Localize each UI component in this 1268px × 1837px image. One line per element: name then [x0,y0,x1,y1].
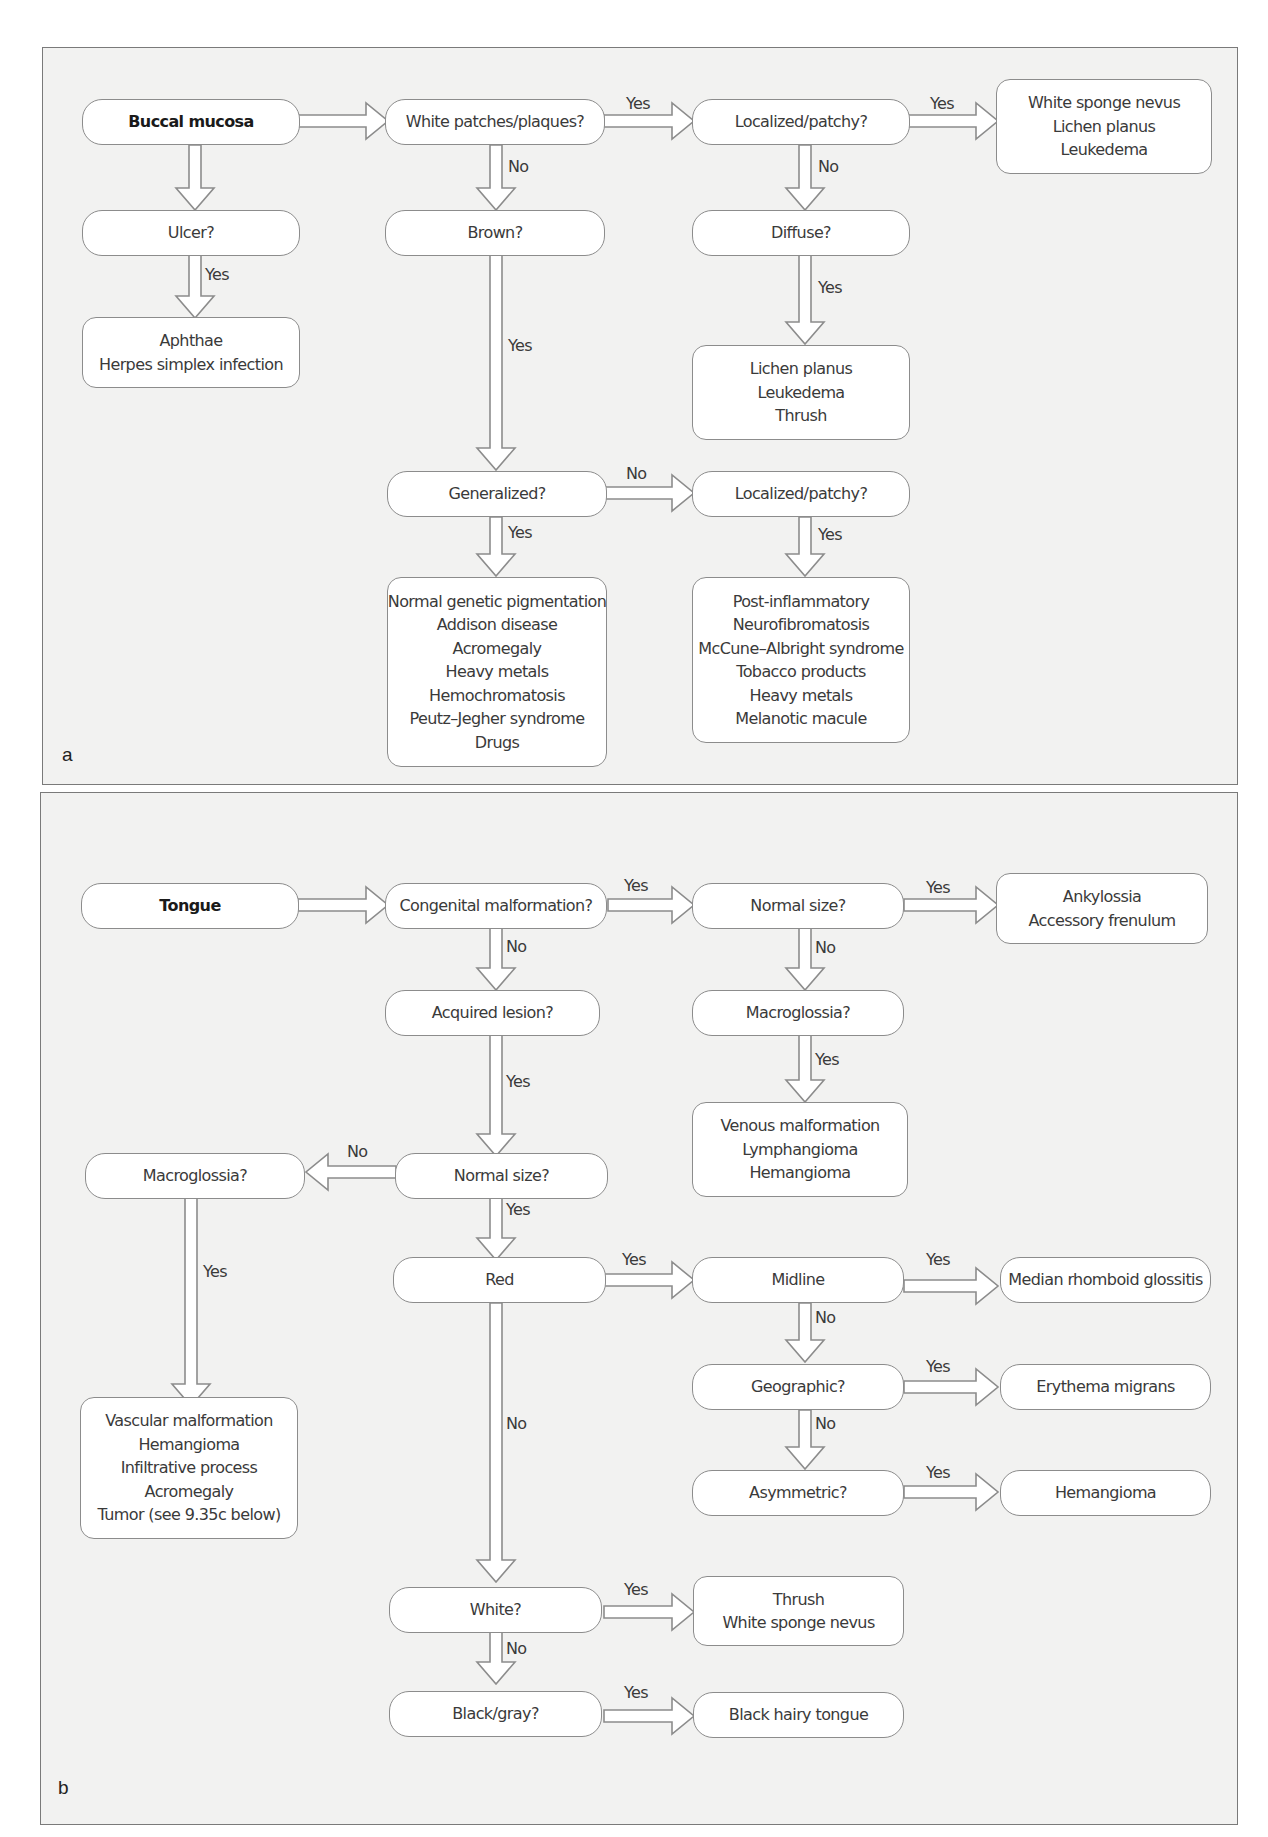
node-normal-size-1: Normal size? [692,883,904,929]
node-red: Red [393,1257,606,1303]
result-item: Leukedema [1060,138,1147,162]
node-normal-size-2: Normal size? [395,1153,608,1199]
node-result-white: Thrush White sponge nevus [693,1576,904,1646]
node-result-localized-1: White sponge nevus Lichen planus Leukede… [996,79,1212,174]
edge-label-ulcer-yes: Yes [205,265,229,284]
result-item: Addison disease [437,613,558,637]
node-label: Normal size? [454,1164,549,1188]
edge-label-white-no-b: No [506,1639,527,1658]
result-item: Tumor (see 9.35c below) [97,1503,280,1527]
node-generalized: Generalized? [387,471,607,517]
node-localized-patchy-1: Localized/patchy? [692,99,910,145]
result-item: Peutz–Jegher syndrome [409,707,584,731]
edge-label-normalsize1-yes: Yes [926,878,950,897]
node-congenital-malformation: Congenital malformation? [385,883,607,929]
edge-label-red-no: No [506,1414,527,1433]
result-item: Vascular malformation [105,1409,273,1433]
node-label: Macroglossia? [143,1164,247,1188]
node-label: White? [470,1598,521,1622]
result-item: Lichen planus [1053,115,1156,139]
edge-label-geographic-no: No [815,1414,836,1433]
edge-label-asymmetric-yes: Yes [926,1463,950,1482]
result-item: Infiltrative process [121,1456,258,1480]
node-brown: Brown? [385,210,605,256]
node-result-localized-2: Post-inflammatory Neurofibromatosis McCu… [692,577,910,743]
result-item: Thrush [775,404,827,428]
node-label: Localized/patchy? [735,482,868,506]
result-item: Lichen planus [750,357,853,381]
node-label: Generalized? [448,482,545,506]
node-label: Median rhomboid glossitis [1008,1268,1202,1292]
node-diffuse: Diffuse? [692,210,910,256]
node-macroglossia-1: Macroglossia? [692,990,904,1036]
edge-label-localized1-yes: Yes [930,94,954,113]
edge-label-macroglossia1-yes: Yes [815,1050,839,1069]
node-white: White? [389,1587,602,1633]
node-macroglossia-2: Macroglossia? [85,1153,305,1199]
edge-label-midline-no: No [815,1308,836,1327]
edge-label-white-yes-b: Yes [624,1580,648,1599]
node-buccal-mucosa: Buccal mucosa [82,99,300,145]
node-label: Black/gray? [452,1702,539,1726]
node-label: Red [485,1268,514,1292]
result-item: Normal genetic pigmentation [388,590,606,614]
result-item: Thrush [773,1588,825,1612]
result-item: Herpes simplex infection [99,353,283,377]
edge-label-red-yes: Yes [622,1250,646,1269]
result-item: Tobacco products [736,660,866,684]
node-tongue: Tongue [81,883,299,929]
node-result-diffuse: Lichen planus Leukedema Thrush [692,345,910,440]
panel-a-letter: a [62,744,73,766]
result-item: Aphthae [159,329,222,353]
result-item: Hemangioma [749,1161,850,1185]
node-midline: Midline [692,1257,904,1303]
node-label: Asymmetric? [749,1481,847,1505]
node-label: Black hairy tongue [729,1703,868,1727]
edge-label-geographic-yes: Yes [926,1357,950,1376]
node-label: White patches/plaques? [406,110,585,134]
result-item: Heavy metals [446,660,549,684]
node-result-asymmetric: Hemangioma [1000,1470,1211,1516]
result-item: Acromegaly [453,637,542,661]
node-result-macroglossia-2: Vascular malformation Hemangioma Infiltr… [80,1397,298,1539]
result-item: White sponge nevus [722,1611,874,1635]
edge-label-macroglossia2-yes: Yes [203,1262,227,1281]
node-label: Congenital malformation? [400,894,593,918]
edge-label-normalsize2-no: No [347,1142,368,1161]
node-label: Erythema migrans [1036,1375,1174,1399]
result-item: Post-inflammatory [733,590,870,614]
result-item: Ankylossia [1063,885,1141,909]
result-item: White sponge nevus [1028,91,1180,115]
node-ulcer: Ulcer? [82,210,300,256]
node-result-geographic: Erythema migrans [1000,1364,1211,1410]
result-item: Accessory frenulum [1028,909,1175,933]
result-item: Neurofibromatosis [733,613,870,637]
edge-label-black-yes: Yes [624,1683,648,1702]
node-label: Ulcer? [168,221,214,245]
edge-label-white-yes: Yes [626,94,650,113]
edge-label-midline-yes: Yes [926,1250,950,1269]
node-result-normal-size-1: Ankylossia Accessory frenulum [996,873,1208,944]
node-label: Hemangioma [1055,1481,1156,1505]
edge-label-white-no: No [508,157,529,176]
node-result-generalized: Normal genetic pigmentation Addison dise… [387,577,607,767]
edge-label-normalsize2-yes: Yes [506,1200,530,1219]
result-item: Melanotic macule [735,707,866,731]
node-label: Tongue [159,894,220,918]
node-label: Acquired lesion? [432,1001,553,1025]
edge-label-congenital-yes: Yes [624,876,648,895]
result-item: McCune–Albright syndrome [698,637,903,661]
edge-label-generalized-no: No [626,464,647,483]
edge-label-brown-yes: Yes [508,336,532,355]
node-result-ulcer: Aphthae Herpes simplex infection [82,317,300,388]
node-label: Macroglossia? [746,1001,850,1025]
edge-label-diffuse-yes: Yes [818,278,842,297]
result-item: Acromegaly [145,1480,234,1504]
node-acquired-lesion: Acquired lesion? [385,990,600,1036]
node-label: Midline [771,1268,824,1292]
node-localized-patchy-2: Localized/patchy? [692,471,910,517]
result-item: Hemangioma [138,1433,239,1457]
result-item: Venous malformation [720,1114,879,1138]
node-white-patches: White patches/plaques? [385,99,605,145]
panel-b-letter: b [58,1777,69,1799]
